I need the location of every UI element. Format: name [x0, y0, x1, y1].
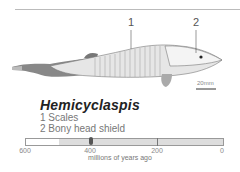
timeline-label-200: 200	[151, 147, 163, 154]
timeline-tick-200	[157, 138, 158, 146]
legend-item-scales: 1 Scales	[40, 112, 78, 123]
legend-item-head-shield: 2 Bony head shield	[40, 123, 125, 134]
callout-2: 2	[193, 16, 199, 28]
timeline-label-400: 400	[84, 147, 96, 154]
scale-bar-label: 20mm	[197, 80, 214, 86]
timeline-range-shade	[59, 139, 223, 145]
timeline-caption: millions of years ago	[0, 154, 240, 161]
timeline-marker	[89, 137, 93, 145]
callout-1: 1	[128, 16, 134, 28]
timeline-bar	[25, 138, 224, 146]
species-title: Hemicyclaspis	[40, 97, 140, 113]
timeline-label-0: 0	[220, 147, 224, 154]
timeline-label-600: 600	[19, 147, 31, 154]
